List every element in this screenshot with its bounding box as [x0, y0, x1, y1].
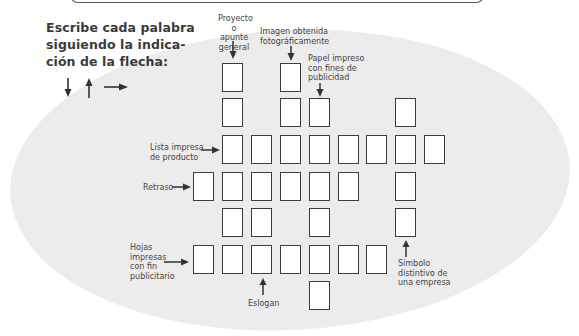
arrow-down-icon	[229, 41, 239, 61]
letter-box[interactable]	[366, 135, 387, 164]
clue-lista: Lista impresa de producto	[150, 143, 204, 162]
arrow-down-icon	[64, 78, 74, 98]
arrow-right-icon	[201, 145, 223, 155]
letter-box[interactable]	[366, 245, 387, 274]
clue-retraso: Retraso	[143, 183, 174, 193]
letter-box[interactable]	[395, 98, 416, 127]
instructions-line-3: ción de la flecha:	[46, 53, 206, 70]
letter-box[interactable]	[280, 63, 301, 92]
arrow-up-icon	[402, 240, 412, 258]
top-banner-frame	[70, 0, 484, 3]
arrow-right-icon	[164, 257, 192, 267]
letter-box[interactable]	[395, 208, 416, 237]
arrow-right-icon	[104, 82, 130, 92]
letter-box[interactable]	[222, 135, 243, 164]
arrow-right-icon	[172, 182, 194, 192]
letter-box[interactable]	[309, 172, 330, 201]
letter-box[interactable]	[193, 172, 214, 201]
letter-box[interactable]	[251, 135, 272, 164]
arrow-down-icon	[287, 46, 297, 64]
letter-box[interactable]	[222, 172, 243, 201]
letter-box[interactable]	[309, 245, 330, 274]
letter-box[interactable]	[280, 98, 301, 127]
letter-box[interactable]	[309, 281, 330, 310]
arrow-up-icon	[85, 78, 95, 98]
letter-box[interactable]	[222, 208, 243, 237]
letter-box[interactable]	[280, 245, 301, 274]
instructions-line-2: siguiendo la indica-	[46, 36, 206, 53]
letter-box[interactable]	[193, 245, 214, 274]
letter-box[interactable]	[424, 135, 445, 164]
letter-box[interactable]	[251, 208, 272, 237]
clue-simbolo: Símbolo distintivo de una empresa	[398, 259, 450, 288]
arrow-up-icon	[259, 278, 269, 296]
letter-box[interactable]	[222, 98, 243, 127]
letter-box[interactable]	[309, 135, 330, 164]
letter-box[interactable]	[338, 172, 359, 201]
letter-box[interactable]	[338, 245, 359, 274]
letter-box[interactable]	[280, 172, 301, 201]
letter-box[interactable]	[251, 245, 272, 274]
letter-box[interactable]	[395, 172, 416, 201]
letter-box[interactable]	[222, 245, 243, 274]
letter-box[interactable]	[309, 98, 330, 127]
clue-eslogan: Eslogan	[248, 299, 279, 309]
letter-box[interactable]	[395, 135, 416, 164]
letter-box[interactable]	[222, 63, 243, 92]
letter-box[interactable]	[280, 135, 301, 164]
letter-box[interactable]	[338, 135, 359, 164]
clue-imagen: Imagen obtenida fotográficamente	[260, 27, 329, 46]
letter-box[interactable]	[309, 208, 330, 237]
instructions-line-1: Escribe cada palabra	[46, 19, 206, 36]
instructions-text: Escribe cada palabra siguiendo la indica…	[46, 19, 206, 70]
arrow-down-icon	[316, 83, 326, 99]
clue-papel: Papel impreso con fines de publicidad	[308, 54, 364, 83]
letter-box[interactable]	[251, 172, 272, 201]
